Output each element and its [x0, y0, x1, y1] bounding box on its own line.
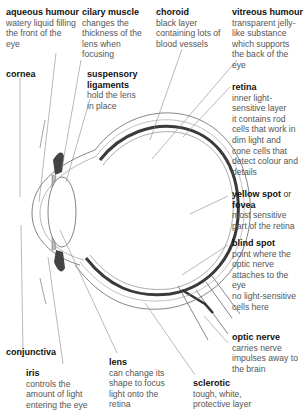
label-retina: retina inner light- sensitive layer it c…: [232, 82, 305, 177]
label-desc: point where the optic nerve attaches to …: [232, 249, 305, 313]
label-desc: controls the amount of light entering th…: [26, 379, 106, 411]
label-yellow-spot: yellow spot or fovea most sensitive part…: [232, 189, 305, 231]
label-title: blind spot: [232, 238, 305, 249]
label-iris: iris controls the amount of light enteri…: [26, 368, 106, 410]
label-title: sclerotic: [193, 378, 268, 389]
label-blind-spot: blind spot point where the optic nerve a…: [232, 238, 305, 312]
label-title: lens: [109, 357, 184, 368]
label-title: optic nerve: [232, 332, 305, 343]
label-title: conjunctiva: [6, 347, 56, 358]
label-title: yellow spot: [232, 189, 281, 199]
sclera-outline: [75, 113, 250, 309]
label-vitreous-humour: vitreous humour transparent jelly- like …: [232, 7, 305, 71]
label-desc: watery liquid filling the front of the e…: [6, 18, 86, 50]
label-or: or: [281, 189, 291, 199]
lens-shape: [48, 177, 76, 247]
label-title: cilary muscle: [82, 7, 152, 18]
label-desc: hold the lens in place: [87, 90, 157, 111]
label-title: retina: [232, 82, 305, 93]
label-desc: tough, white, protective layer: [193, 389, 268, 410]
label-desc: changes the thickness of the lens when f…: [82, 18, 152, 60]
label-desc: black layer containing lots of blood ves…: [156, 18, 236, 50]
label-suspensory-ligaments: suspensory ligaments hold the lens in pl…: [87, 69, 157, 111]
label-title: aqueous humour: [6, 7, 86, 18]
label-conjunctiva: conjunctiva: [6, 347, 56, 358]
label-title: cornea: [6, 69, 36, 80]
label-cornea: cornea: [6, 69, 36, 80]
label-title: iris: [26, 368, 106, 379]
label-title: suspensory ligaments: [87, 69, 157, 90]
label-desc: inner light- sensitive layer it contains…: [232, 93, 305, 178]
label-desc: can change its shape to focus light onto…: [109, 368, 184, 410]
label-sclerotic: sclerotic tough, white, protective layer: [193, 378, 268, 410]
label-title: choroid: [156, 7, 236, 18]
label-desc: most sensitive part of the retina: [232, 210, 305, 231]
label-title: vitreous humour: [232, 7, 305, 18]
label-desc: carries nerve impulses away to the brain: [232, 343, 305, 375]
label-lens: lens can change its shape to focus light…: [109, 357, 184, 410]
label-aqueous-humour: aqueous humour watery liquid filling the…: [6, 7, 86, 49]
label-desc: transparent jelly- like substance which …: [232, 18, 305, 71]
label-title-2: fovea: [232, 200, 305, 211]
label-ciliary-muscle: cilary muscle changes the thickness of t…: [82, 7, 152, 60]
choroid-shape: [86, 126, 238, 295]
label-choroid: choroid black layer containing lots of b…: [156, 7, 236, 49]
label-optic-nerve: optic nerve carries nerve impulses away …: [232, 332, 305, 374]
